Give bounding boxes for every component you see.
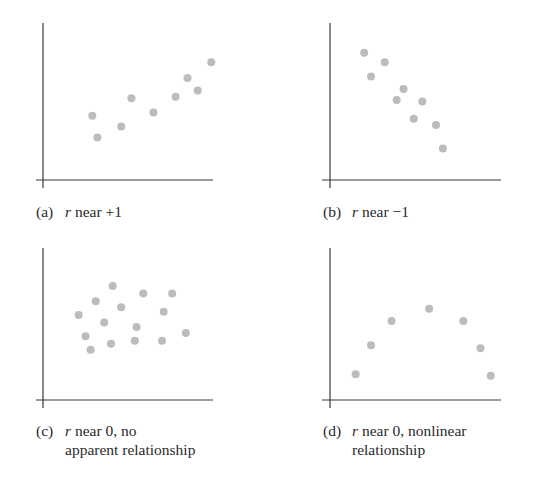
panel-caption: r near 0, no: [65, 422, 137, 439]
data-point: [439, 145, 447, 153]
correlation-scatter-figure: (a)r near +1 (b)r near −1 (c)r near 0, n…: [0, 0, 553, 487]
data-point: [87, 346, 95, 354]
data-point: [158, 337, 166, 345]
data-point: [425, 305, 433, 313]
caption-text: near −1: [358, 203, 409, 220]
panel-label: (d): [323, 422, 341, 440]
data-point: [88, 112, 96, 120]
data-point: [133, 323, 141, 331]
data-point: [476, 344, 484, 352]
data-point: [367, 72, 375, 80]
caption-text: relationship: [352, 441, 425, 458]
panel-caption: r near −1: [352, 203, 409, 220]
panel-caption: apparent relationship: [65, 441, 196, 458]
data-point: [92, 297, 100, 305]
data-point: [400, 85, 408, 93]
data-point: [381, 58, 389, 66]
data-point: [139, 290, 147, 298]
data-point: [360, 49, 368, 57]
data-point: [172, 93, 180, 101]
panel-caption: r near 0, nonlinear: [352, 422, 467, 439]
data-point: [388, 317, 396, 325]
data-point: [410, 115, 418, 123]
data-point: [117, 123, 125, 131]
data-point: [352, 370, 360, 378]
data-point: [432, 121, 440, 129]
caption-text: near 0, no: [71, 422, 137, 439]
panel-label: (a): [36, 203, 53, 221]
panel-d: (d)r near 0, nonlinearrelationship: [322, 248, 501, 458]
data-point: [184, 74, 192, 82]
caption-text: near +1: [71, 203, 122, 220]
data-point: [168, 290, 176, 298]
data-point: [487, 372, 495, 380]
data-point: [131, 337, 139, 345]
data-point: [194, 87, 202, 95]
data-point: [107, 340, 115, 348]
panel-c: (c)r near 0, noapparent relationship: [36, 248, 213, 458]
panel-caption: relationship: [352, 441, 425, 458]
data-point: [418, 98, 426, 106]
panel-a: (a)r near +1: [36, 23, 215, 221]
data-point: [75, 311, 83, 319]
data-point: [393, 96, 401, 104]
panel-caption: r near +1: [65, 203, 122, 220]
data-point: [127, 94, 135, 102]
data-point: [150, 108, 158, 116]
panel-b: (b)r near −1: [322, 23, 501, 221]
panel-label: (b): [323, 203, 341, 221]
data-point: [207, 58, 215, 66]
data-point: [182, 329, 190, 337]
data-point: [109, 282, 117, 290]
data-point: [367, 341, 375, 349]
data-point: [160, 308, 168, 316]
data-point: [117, 303, 125, 311]
caption-text: near 0, nonlinear: [358, 422, 467, 439]
data-point: [100, 318, 108, 326]
data-point: [459, 317, 467, 325]
caption-text: apparent relationship: [65, 441, 196, 458]
data-point: [93, 134, 101, 142]
panel-label: (c): [36, 422, 53, 440]
data-point: [82, 332, 90, 340]
